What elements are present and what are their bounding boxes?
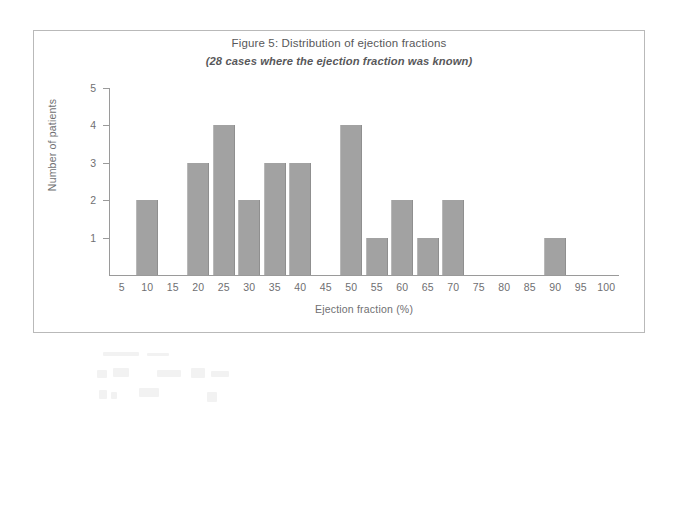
- y-axis-tick-mark: [103, 238, 110, 239]
- bar: [264, 163, 286, 275]
- x-axis-tick-label: 100: [591, 281, 621, 293]
- y-axis-tick-label: 3: [74, 158, 96, 169]
- bar: [417, 238, 439, 275]
- y-axis-tick-mark: [103, 200, 110, 201]
- y-axis-tick-label-wrap: 3: [70, 163, 96, 164]
- bar: [442, 200, 464, 275]
- scan-artifact-marks: [95, 348, 275, 418]
- y-axis-line: [109, 88, 110, 276]
- y-axis-tick-label: 2: [74, 195, 96, 206]
- y-axis-tick-mark: [103, 88, 110, 89]
- figure-container: Figure 5: Distribution of ejection fract…: [33, 30, 645, 333]
- y-axis-tick-label: 5: [74, 83, 96, 94]
- y-axis-tick-label-wrap: 2: [70, 200, 96, 201]
- y-axis-tick-label-wrap: 1: [70, 238, 96, 239]
- bar: [391, 200, 413, 275]
- y-axis-title: Number of patients: [46, 75, 58, 215]
- bar: [213, 125, 235, 275]
- bar: [366, 238, 388, 275]
- x-axis-line: [109, 275, 619, 276]
- y-axis-tick-mark: [103, 163, 110, 164]
- y-axis-tick-label: 1: [74, 233, 96, 244]
- y-axis-tick-mark: [103, 125, 110, 126]
- x-axis-title: Ejection fraction (%): [109, 303, 619, 315]
- y-axis-tick-label: 4: [74, 120, 96, 131]
- y-axis-tick-label-wrap: 5: [70, 88, 96, 89]
- bar: [544, 238, 566, 275]
- chart-plot-area: Number of patients 12345 510152025303540…: [34, 31, 646, 334]
- y-axis-tick-label-wrap: 4: [70, 125, 96, 126]
- bar: [289, 163, 311, 275]
- bar: [136, 200, 158, 275]
- bar: [238, 200, 260, 275]
- bar: [340, 125, 362, 275]
- bar: [187, 163, 209, 275]
